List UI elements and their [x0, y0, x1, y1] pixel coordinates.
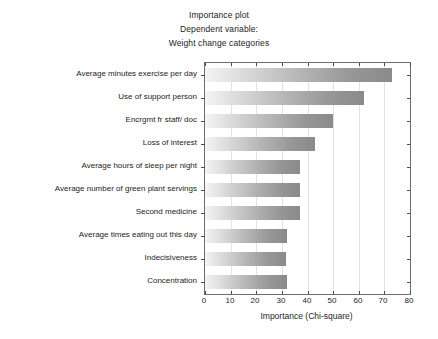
y-tick — [201, 213, 205, 214]
y-tick — [201, 190, 205, 191]
x-tick-bottom — [282, 291, 283, 294]
chart-subtitle: Dependent variable: — [0, 22, 438, 36]
x-tick-bottom — [359, 291, 360, 294]
y-tick-right — [407, 167, 410, 168]
y-tick-right — [407, 259, 410, 260]
bar — [205, 229, 287, 243]
x-tick-top — [256, 63, 257, 66]
x-tick-top — [308, 63, 309, 66]
bar — [205, 91, 364, 105]
y-tick — [201, 121, 205, 122]
chart-subtitle-secondary: Weight change categories — [0, 36, 438, 50]
x-gridline — [384, 63, 385, 294]
category-label: Indecisiveness — [145, 253, 197, 263]
category-label: Average minutes exercise per day — [76, 69, 197, 79]
bar — [205, 275, 287, 289]
y-tick-right — [407, 98, 410, 99]
category-label: Loss of interest — [143, 138, 197, 148]
y-tick-right — [407, 75, 410, 76]
x-tick-bottom — [333, 291, 334, 294]
x-tick-label: 80 — [394, 296, 424, 305]
bar — [205, 183, 300, 197]
bar — [205, 206, 300, 220]
y-tick — [201, 236, 205, 237]
category-label: Use of support person — [118, 92, 197, 102]
category-label: Encrgmt fr staff/ doc — [126, 115, 197, 125]
bar — [205, 68, 392, 82]
category-label: Second medicine — [136, 207, 197, 217]
x-tick-top — [410, 63, 411, 66]
category-label: Average number of green plant servings — [55, 184, 197, 194]
x-tick-bottom — [231, 291, 232, 294]
plot-area — [204, 62, 411, 295]
x-tick-top — [384, 63, 385, 66]
category-label: Concentration — [147, 276, 197, 286]
chart-title-block: Importance plot Dependent variable: Weig… — [0, 8, 438, 50]
y-tick-right — [407, 144, 410, 145]
x-tick-bottom — [384, 291, 385, 294]
category-label: Average hours of sleep per night — [82, 161, 197, 171]
x-tick-bottom — [410, 291, 411, 294]
category-label: Average times eating out this day — [79, 230, 197, 240]
bar — [205, 137, 315, 151]
x-tick-top — [231, 63, 232, 66]
y-tick-right — [407, 282, 410, 283]
y-tick — [201, 282, 205, 283]
bar — [205, 252, 286, 266]
y-tick — [201, 75, 205, 76]
x-tick-bottom — [308, 291, 309, 294]
y-tick-right — [407, 236, 410, 237]
y-tick — [201, 98, 205, 99]
y-tick — [201, 259, 205, 260]
y-tick — [201, 167, 205, 168]
x-tick-top — [205, 63, 206, 66]
x-tick-top — [333, 63, 334, 66]
y-tick — [201, 144, 205, 145]
x-tick-bottom — [256, 291, 257, 294]
importance-plot-figure: Importance plot Dependent variable: Weig… — [0, 0, 438, 339]
x-axis-title: Importance (Chi-square) — [204, 311, 409, 321]
bar — [205, 160, 300, 174]
bar — [205, 114, 333, 128]
chart-title: Importance plot — [0, 8, 438, 22]
y-tick-right — [407, 213, 410, 214]
y-tick-right — [407, 121, 410, 122]
y-tick-right — [407, 190, 410, 191]
x-tick-top — [359, 63, 360, 66]
x-tick-bottom — [205, 291, 206, 294]
x-tick-top — [282, 63, 283, 66]
